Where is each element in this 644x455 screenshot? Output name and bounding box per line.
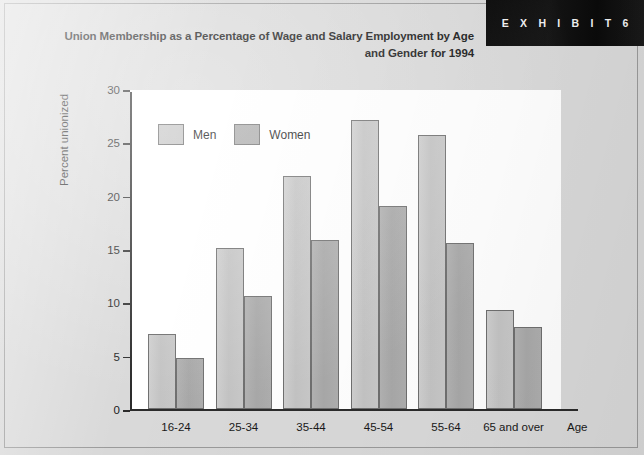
y-axis-tick-label: 30 <box>107 84 120 96</box>
legend-label-women: Women <box>269 128 310 142</box>
bar-women-65-and-over <box>514 327 542 409</box>
legend-item-women: Women <box>234 124 310 145</box>
x-axis-category-label: 65 and over <box>483 421 544 433</box>
bar-women-16-24 <box>176 358 204 409</box>
x-axis-title: Age <box>567 421 587 433</box>
y-axis-tick-label: 5 <box>114 351 120 363</box>
y-axis-tick-mark <box>123 250 130 252</box>
bar-men-25-34 <box>216 248 244 409</box>
chart-legend: MenWomen <box>158 124 310 145</box>
x-axis-category-label: 45-54 <box>364 421 393 433</box>
bar-men-65-and-over <box>486 310 514 409</box>
legend-item-men: Men <box>158 124 216 145</box>
y-axis-tick-mark <box>123 303 130 305</box>
exhibit-page: E X H I B I T 6 Union Membership as a Pe… <box>0 0 644 455</box>
y-axis-tick-mark <box>123 197 130 199</box>
x-axis-category-label: 16-24 <box>161 421 190 433</box>
y-axis-tick-mark <box>123 143 130 145</box>
chart-title: Union Membership as a Percentage of Wage… <box>34 28 474 63</box>
y-axis-tick-label: 20 <box>107 191 120 203</box>
x-axis-line <box>130 409 578 411</box>
bar-women-35-44 <box>311 240 339 409</box>
y-axis-tick-label: 0 <box>114 404 120 416</box>
y-axis-title: Percent unionized <box>58 94 70 186</box>
x-axis-category-label: 35-44 <box>296 421 325 433</box>
y-axis-tick-mark <box>123 357 130 359</box>
y-axis-tick-label: 25 <box>107 137 120 149</box>
exhibit-number-box: E X H I B I T 6 <box>486 0 644 46</box>
legend-label-men: Men <box>193 128 216 142</box>
bar-men-16-24 <box>148 334 176 409</box>
x-axis-category-label: 55-64 <box>431 421 460 433</box>
bar-men-55-64 <box>418 135 446 409</box>
y-axis-tick-label: 10 <box>107 297 120 309</box>
bar-men-35-44 <box>283 176 311 409</box>
x-axis-category-label: 25-34 <box>229 421 258 433</box>
legend-swatch-men <box>158 124 184 145</box>
bar-women-45-54 <box>379 206 407 409</box>
chart-title-line1: Union Membership as a Percentage of Wage… <box>34 28 474 45</box>
exhibit-number-label: E X H I B I T 6 <box>498 17 633 29</box>
legend-swatch-women <box>234 124 260 145</box>
y-axis-tick-mark <box>123 410 130 412</box>
y-axis-tick-label: 15 <box>107 244 120 256</box>
bar-men-45-54 <box>351 120 379 409</box>
y-axis-line <box>130 92 132 410</box>
bar-women-25-34 <box>244 296 272 409</box>
chart-title-line2: and Gender for 1994 <box>34 45 474 62</box>
y-axis-tick-mark <box>123 90 130 92</box>
bar-women-55-64 <box>446 243 474 409</box>
